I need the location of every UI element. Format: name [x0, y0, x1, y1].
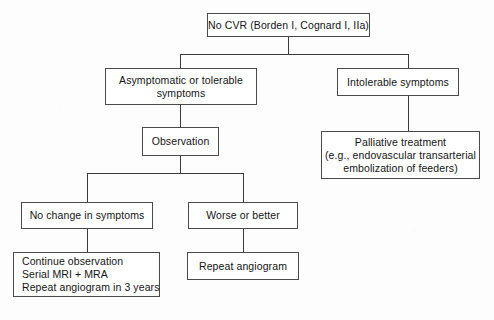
node-no-cvr[interactable]: No CVR (Borden I, Cognard I, IIa) — [207, 13, 370, 37]
connector-worse-or-better-to-repeat-angiogram — [243, 229, 244, 252]
node-worse-or-better[interactable]: Worse or better — [188, 202, 298, 229]
node-palliative-line-3: embolization of feeders) — [343, 162, 457, 175]
node-intolerable-line-1: Intolerable symptoms — [347, 76, 449, 89]
connector-root-split-bar — [180, 54, 408, 55]
node-palliative-line-2: (e.g., endovascular transarterial — [325, 149, 476, 162]
node-no-change-in-symptoms[interactable]: No change in symptoms — [21, 202, 153, 229]
connector-observation-to-no-change — [87, 173, 88, 202]
node-repeat-angiogram-line-1: Repeat angiogram — [199, 260, 287, 273]
connector-observation-to-worse-or-better — [243, 173, 244, 202]
connector-intolerable-to-palliative — [408, 96, 409, 131]
node-asymptomatic-or-tolerable-symptoms[interactable]: Asymptomatic or tolerable symptoms — [105, 68, 257, 105]
connector-no-change-to-continue-observation — [87, 229, 88, 252]
node-repeat-angiogram[interactable]: Repeat angiogram — [187, 252, 299, 280]
connector-root-stem — [288, 37, 289, 54]
node-observation[interactable]: Observation — [142, 127, 219, 156]
connector-asymptomatic-to-observation — [180, 105, 181, 127]
node-continue-observation[interactable]: Continue observation Serial MRI + MRA Re… — [13, 252, 160, 297]
node-worse-or-better-line-1: Worse or better — [206, 209, 280, 222]
node-continue-observation-line-2: Serial MRI + MRA — [22, 268, 108, 281]
connector-root-to-asymptomatic — [180, 54, 181, 68]
node-palliative-treatment[interactable]: Palliative treatment (e.g., endovascular… — [321, 131, 480, 179]
node-continue-observation-line-3: Repeat angiogram in 3 years — [22, 281, 160, 294]
node-no-change-line-1: No change in symptoms — [30, 209, 145, 222]
node-no-cvr-line-1: No CVR (Borden I, Cognard I, IIa) — [208, 19, 369, 32]
node-asymptomatic-line-1: Asymptomatic or tolerable — [119, 74, 243, 87]
node-asymptomatic-line-2: symptoms — [157, 87, 206, 100]
node-observation-line-1: Observation — [152, 135, 210, 148]
connector-observation-split-bar — [87, 173, 243, 174]
flowchart-canvas: No CVR (Borden I, Cognard I, IIa) Asympt… — [0, 0, 494, 320]
connector-observation-stem — [180, 156, 181, 173]
node-intolerable-symptoms[interactable]: Intolerable symptoms — [337, 68, 459, 96]
node-palliative-line-1: Palliative treatment — [355, 136, 446, 149]
connector-root-to-intolerable — [408, 54, 409, 68]
node-continue-observation-line-1: Continue observation — [22, 255, 123, 268]
